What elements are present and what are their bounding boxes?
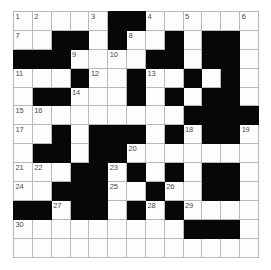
crossword-cell[interactable] bbox=[108, 106, 127, 125]
crossword-cell-numbered-7[interactable]: 7 bbox=[14, 30, 33, 49]
crossword-cell[interactable] bbox=[89, 87, 108, 106]
crossword-cell[interactable] bbox=[145, 30, 164, 49]
crossword-cell[interactable] bbox=[240, 200, 259, 219]
crossword-cell-numbered-30[interactable]: 30 bbox=[14, 219, 33, 238]
crossword-cell[interactable] bbox=[145, 144, 164, 163]
crossword-cell-numbered-25[interactable]: 25 bbox=[108, 182, 127, 201]
crossword-cell-numbered-15[interactable]: 15 bbox=[14, 106, 33, 125]
crossword-cell[interactable] bbox=[70, 125, 89, 144]
crossword-cell[interactable] bbox=[127, 106, 146, 125]
crossword-cell[interactable] bbox=[183, 30, 202, 49]
crossword-cell-numbered-18[interactable]: 18 bbox=[183, 125, 202, 144]
crossword-cell[interactable] bbox=[108, 219, 127, 238]
crossword-grid[interactable]: 1234567891011121314151617181920212223242… bbox=[13, 11, 259, 258]
crossword-cell[interactable] bbox=[32, 125, 51, 144]
crossword-cell[interactable] bbox=[164, 106, 183, 125]
crossword-cell[interactable] bbox=[51, 68, 70, 87]
crossword-cell[interactable] bbox=[127, 238, 146, 257]
crossword-cell-numbered-27[interactable]: 27 bbox=[51, 200, 70, 219]
crossword-cell-numbered-29[interactable]: 29 bbox=[183, 200, 202, 219]
crossword-cell[interactable] bbox=[183, 182, 202, 201]
crossword-cell[interactable] bbox=[145, 106, 164, 125]
crossword-cell-numbered-22[interactable]: 22 bbox=[32, 163, 51, 182]
crossword-cell[interactable] bbox=[240, 49, 259, 68]
crossword-cell-numbered-21[interactable]: 21 bbox=[14, 163, 33, 182]
crossword-cell[interactable] bbox=[127, 219, 146, 238]
crossword-cell[interactable] bbox=[108, 68, 127, 87]
crossword-cell[interactable] bbox=[240, 144, 259, 163]
crossword-cell[interactable] bbox=[221, 144, 240, 163]
crossword-cell[interactable] bbox=[221, 200, 240, 219]
crossword-cell[interactable] bbox=[202, 200, 221, 219]
crossword-cell[interactable] bbox=[14, 238, 33, 257]
crossword-cell[interactable] bbox=[89, 238, 108, 257]
crossword-cell[interactable] bbox=[183, 87, 202, 106]
crossword-cell[interactable] bbox=[240, 238, 259, 257]
crossword-cell[interactable] bbox=[164, 68, 183, 87]
crossword-cell[interactable] bbox=[108, 200, 127, 219]
crossword-cell[interactable] bbox=[89, 106, 108, 125]
crossword-cell[interactable] bbox=[70, 12, 89, 31]
crossword-cell-numbered-28[interactable]: 28 bbox=[145, 200, 164, 219]
crossword-cell[interactable] bbox=[89, 49, 108, 68]
crossword-cell[interactable] bbox=[70, 238, 89, 257]
crossword-cell-numbered-24[interactable]: 24 bbox=[14, 182, 33, 201]
crossword-cell[interactable] bbox=[202, 12, 221, 31]
crossword-cell[interactable] bbox=[145, 238, 164, 257]
crossword-cell[interactable] bbox=[14, 144, 33, 163]
crossword-cell[interactable] bbox=[127, 182, 146, 201]
crossword-cell-numbered-8[interactable]: 8 bbox=[127, 30, 146, 49]
crossword-cell-numbered-16[interactable]: 16 bbox=[32, 106, 51, 125]
crossword-cell[interactable] bbox=[240, 163, 259, 182]
crossword-cell[interactable] bbox=[145, 219, 164, 238]
crossword-cell[interactable] bbox=[164, 238, 183, 257]
crossword-cell[interactable] bbox=[108, 87, 127, 106]
crossword-cell[interactable] bbox=[221, 12, 240, 31]
crossword-cell[interactable] bbox=[164, 12, 183, 31]
crossword-cell-numbered-20[interactable]: 20 bbox=[127, 144, 146, 163]
crossword-cell-numbered-5[interactable]: 5 bbox=[183, 12, 202, 31]
crossword-cell[interactable] bbox=[89, 30, 108, 49]
crossword-cell[interactable] bbox=[202, 238, 221, 257]
crossword-cell[interactable] bbox=[70, 219, 89, 238]
crossword-cell-numbered-19[interactable]: 19 bbox=[240, 125, 259, 144]
crossword-cell-numbered-26[interactable]: 26 bbox=[164, 182, 183, 201]
crossword-cell[interactable] bbox=[32, 182, 51, 201]
crossword-cell-numbered-4[interactable]: 4 bbox=[145, 12, 164, 31]
crossword-cell[interactable] bbox=[145, 125, 164, 144]
crossword-cell[interactable] bbox=[240, 87, 259, 106]
crossword-cell-numbered-12[interactable]: 12 bbox=[89, 68, 108, 87]
crossword-cell[interactable] bbox=[89, 219, 108, 238]
crossword-cell-numbered-13[interactable]: 13 bbox=[145, 68, 164, 87]
crossword-cell[interactable] bbox=[183, 163, 202, 182]
crossword-cell[interactable] bbox=[183, 144, 202, 163]
crossword-cell[interactable] bbox=[70, 106, 89, 125]
crossword-cell[interactable] bbox=[221, 238, 240, 257]
crossword-cell[interactable] bbox=[202, 68, 221, 87]
crossword-cell-numbered-23[interactable]: 23 bbox=[108, 163, 127, 182]
crossword-cell[interactable] bbox=[51, 219, 70, 238]
crossword-cell[interactable] bbox=[145, 87, 164, 106]
crossword-cell-numbered-14[interactable]: 14 bbox=[70, 87, 89, 106]
crossword-cell[interactable] bbox=[51, 106, 70, 125]
crossword-cell[interactable] bbox=[183, 49, 202, 68]
crossword-cell-numbered-11[interactable]: 11 bbox=[14, 68, 33, 87]
crossword-cell[interactable] bbox=[127, 49, 146, 68]
crossword-cell[interactable] bbox=[183, 238, 202, 257]
crossword-cell[interactable] bbox=[32, 68, 51, 87]
crossword-cell[interactable] bbox=[32, 219, 51, 238]
crossword-cell-numbered-3[interactable]: 3 bbox=[89, 12, 108, 31]
crossword-cell[interactable] bbox=[51, 163, 70, 182]
crossword-cell-numbered-17[interactable]: 17 bbox=[14, 125, 33, 144]
crossword-cell[interactable] bbox=[240, 68, 259, 87]
crossword-cell[interactable] bbox=[240, 219, 259, 238]
crossword-cell-numbered-10[interactable]: 10 bbox=[108, 49, 127, 68]
crossword-cell-numbered-1[interactable]: 1 bbox=[14, 12, 33, 31]
crossword-cell[interactable] bbox=[32, 30, 51, 49]
crossword-cell[interactable] bbox=[145, 163, 164, 182]
crossword-cell-numbered-9[interactable]: 9 bbox=[70, 49, 89, 68]
crossword-cell-numbered-2[interactable]: 2 bbox=[32, 12, 51, 31]
crossword-cell[interactable] bbox=[202, 144, 221, 163]
crossword-cell[interactable] bbox=[164, 144, 183, 163]
crossword-cell[interactable] bbox=[164, 219, 183, 238]
